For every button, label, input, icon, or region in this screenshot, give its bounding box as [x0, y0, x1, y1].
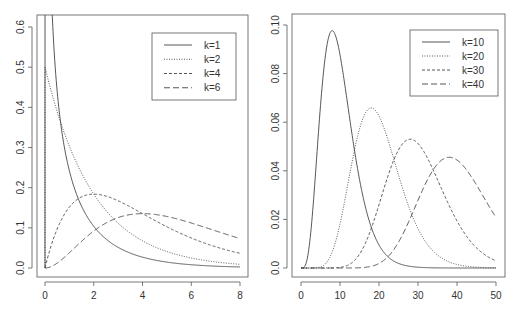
x-tick-label: 10: [334, 290, 346, 301]
series-line-k-20: [301, 108, 496, 268]
legend-label: k=6: [204, 82, 221, 93]
x-tick-label: 8: [237, 290, 243, 301]
legend-label: k=2: [204, 54, 221, 65]
legend-label: k=30: [462, 65, 484, 76]
y-tick-label: 0.3: [15, 140, 26, 154]
x-tick-label: 50: [490, 290, 502, 301]
y-tick-label: 0.4: [15, 100, 26, 114]
y-tick-label: 0.0: [15, 261, 26, 275]
y-tick-label: 0.0: [270, 261, 281, 275]
legend-box: [410, 30, 498, 96]
legend-label: k=40: [462, 79, 484, 90]
y-tick-label: 0.1: [15, 220, 26, 234]
x-tick-label: 0: [298, 290, 304, 301]
legend-label: k=4: [204, 68, 221, 79]
left-chart-panel: 024680.00.10.20.30.40.50.6k=1k=2k=4k=6: [15, 0, 248, 301]
y-tick-label: 0.6: [15, 20, 26, 34]
x-tick-label: 4: [140, 290, 146, 301]
y-axis: 0.00.020.040.060.080.10: [270, 15, 287, 275]
x-tick-label: 6: [188, 290, 194, 301]
y-tick-label: 0.08: [270, 63, 281, 83]
x-tick-label: 2: [91, 290, 97, 301]
y-axis: 0.00.10.20.30.40.50.6: [15, 20, 32, 275]
legend: k=10k=20k=30k=40: [410, 30, 498, 96]
series-line-k-30: [301, 139, 496, 268]
x-axis: 02468: [42, 282, 243, 301]
right-chart-panel: 010203040500.00.020.040.060.080.10k=10k=…: [270, 14, 505, 301]
chart-figure: 024680.00.10.20.30.40.50.6k=1k=2k=4k=6 0…: [0, 0, 520, 312]
y-tick-label: 0.04: [270, 161, 281, 181]
legend: k=1k=2k=4k=6: [152, 33, 236, 100]
x-tick-label: 30: [412, 290, 424, 301]
legend-label: k=20: [462, 51, 484, 62]
x-tick-label: 20: [373, 290, 385, 301]
x-axis: 01020304050: [298, 282, 502, 301]
legend-box: [152, 33, 236, 100]
x-tick-label: 0: [42, 290, 48, 301]
y-tick-label: 0.06: [270, 112, 281, 132]
y-tick-label: 0.10: [270, 15, 281, 35]
x-tick-label: 40: [451, 290, 463, 301]
y-tick-label: 0.02: [270, 209, 281, 229]
y-tick-label: 0.2: [15, 180, 26, 194]
y-tick-label: 0.5: [15, 60, 26, 74]
legend-label: k=10: [462, 37, 484, 48]
legend-label: k=1: [204, 40, 221, 51]
